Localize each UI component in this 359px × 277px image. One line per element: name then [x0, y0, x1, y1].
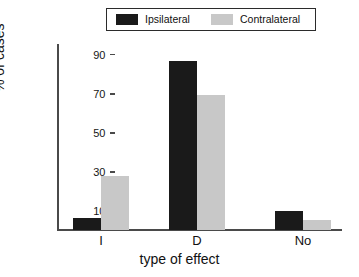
- bar-no-contralateral: [303, 220, 331, 230]
- bar-d-contralateral: [197, 95, 225, 230]
- y-axis-title: % of cases: [0, 24, 6, 92]
- chart-legend: Ipsilateral Contralateral: [106, 8, 316, 31]
- y-tick-30: 30: [110, 171, 115, 173]
- y-tick-label: 90: [93, 49, 105, 60]
- bar-no-ipsilateral: [275, 211, 303, 230]
- y-tick-label: 50: [93, 127, 105, 138]
- legend-entry-contralateral: Contralateral: [211, 14, 300, 25]
- y-tick-90: 90: [110, 54, 115, 56]
- y-tick-label: 70: [93, 88, 105, 99]
- legend-swatch-contralateral: [211, 14, 233, 25]
- legend-label-contralateral: Contralateral: [240, 14, 300, 25]
- bar-d-ipsilateral: [169, 61, 197, 230]
- bar-i-contralateral: [101, 176, 129, 230]
- y-tick-50: 50: [110, 132, 115, 134]
- y-tick-70: 70: [110, 93, 115, 95]
- x-tick-label-no: No: [295, 234, 312, 247]
- x-tick-label-d: D: [192, 234, 201, 247]
- bar-i-ipsilateral: [73, 218, 101, 230]
- legend-swatch-ipsilateral: [116, 14, 138, 25]
- bar-chart-figure: Ipsilateral Contralateral % of cases 103…: [0, 0, 359, 277]
- plot-area: 1030507090: [57, 44, 340, 230]
- legend-entry-ipsilateral: Ipsilateral: [116, 14, 190, 25]
- x-axis-title: type of effect: [0, 252, 359, 266]
- x-tick-label-i: I: [99, 234, 103, 247]
- legend-label-ipsilateral: Ipsilateral: [145, 14, 190, 25]
